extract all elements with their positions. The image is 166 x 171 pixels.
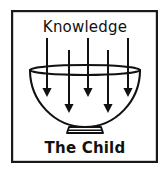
knowledge-label: Knowledge [43,18,127,36]
diagram-container: Knowledge [0,0,166,171]
knowledge-into-child-diagram: Knowledge [0,0,166,171]
the-child-label: The Child [45,139,126,157]
